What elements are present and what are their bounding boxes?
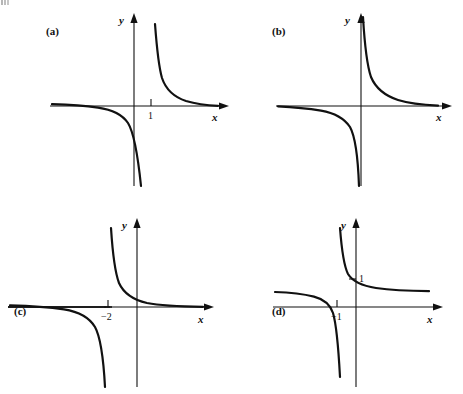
panel-a: (a) y x 1	[0, 0, 231, 197]
panel-a-plot: y x	[0, 0, 231, 197]
y-axis-name-c: y	[120, 219, 127, 231]
y-axis	[357, 13, 364, 186]
x-axis-name-c: x	[197, 313, 204, 325]
panel-c: (c) y x −2	[0, 197, 231, 394]
curve-left-branch	[52, 104, 141, 186]
y-axis-name-d: y	[339, 219, 346, 231]
curve-right-branch	[340, 228, 429, 291]
panel-d-ytick-label-1: 1	[359, 273, 364, 284]
x-axis	[273, 303, 443, 310]
panel-a-xtick-label-1: 1	[148, 110, 153, 121]
panel-c-label: (c)	[14, 305, 26, 317]
panel-d-plot: y x	[232, 197, 463, 394]
x-axis-name-d: x	[426, 313, 433, 325]
panel-c-xtick-label-neg2: −2	[101, 311, 112, 322]
panel-a-label: (a)	[46, 25, 59, 37]
panel-d-label: (d)	[272, 305, 285, 317]
panel-b-plot: y x	[232, 0, 463, 197]
y-axis	[133, 218, 140, 387]
x-axis-name-b: x	[435, 111, 442, 123]
panel-b-label: (b)	[272, 25, 285, 37]
curve-right-branch	[155, 24, 218, 106]
y-axis	[130, 13, 137, 186]
y-axis-name-b: y	[343, 14, 350, 26]
panel-c-plot: y x	[0, 197, 231, 394]
y-axis-name-a: y	[117, 14, 124, 26]
y-axis	[352, 218, 359, 387]
panel-d: (d) y x −1 1	[232, 197, 463, 394]
panel-d-xtick-label-neg1: −1	[331, 311, 342, 322]
curve-right-branch	[111, 228, 203, 307]
figure-four-hyperbola-graphs: (a) y x 1 (b)	[0, 0, 463, 394]
panel-b: (b) y x	[232, 0, 463, 197]
curve-left-branch	[278, 106, 359, 186]
x-axis-name-a: x	[211, 111, 218, 123]
curve-right-branch	[363, 17, 438, 106]
curve-left-branch	[10, 305, 105, 387]
